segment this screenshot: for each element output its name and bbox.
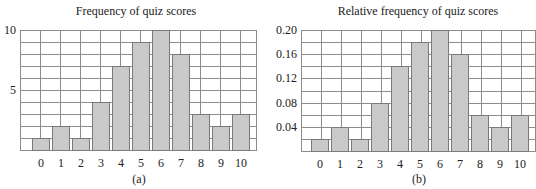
x-tick-label: 1 (337, 157, 343, 171)
x-tick-label: 1 (58, 156, 64, 170)
y-axis-ticks: 0.040.080.120.160.20 (276, 23, 297, 134)
chart-frequency: Frequency of quiz scores 510 01234567891… (0, 0, 270, 189)
x-tick-label: 6 (158, 156, 164, 170)
x-tick-label: 10 (514, 157, 526, 171)
x-tick-label: 6 (437, 157, 443, 171)
x-tick-label: 8 (477, 157, 483, 171)
bar-3 (372, 104, 389, 152)
y-tick-label: 0.08 (276, 96, 297, 110)
x-tick-label: 7 (178, 156, 184, 170)
bar-10 (233, 115, 250, 151)
bar-0 (312, 140, 329, 152)
x-tick-label: 0 (317, 157, 323, 171)
y-tick-label: 10 (4, 23, 16, 37)
x-axis-ticks: 012345678910 (317, 157, 526, 171)
bar-3 (93, 103, 110, 151)
y-tick-label: 0.04 (276, 120, 297, 134)
x-tick-label: 2 (357, 157, 363, 171)
x-tick-label: 10 (235, 156, 247, 170)
y-tick-label: 0.16 (276, 47, 297, 61)
bar-1 (53, 127, 70, 151)
bar-0 (33, 139, 50, 151)
x-axis-ticks: 012345678910 (38, 156, 247, 170)
x-tick-label: 3 (98, 156, 104, 170)
chart-title: Relative frequency of quiz scores (338, 4, 499, 18)
x-tick-label: 5 (417, 157, 423, 171)
bar-2 (73, 139, 90, 151)
bar-2 (352, 140, 369, 152)
bar-8 (193, 115, 210, 151)
chart-caption: (b) (412, 172, 426, 186)
bar-8 (472, 116, 489, 152)
x-tick-label: 8 (198, 156, 204, 170)
bar-7 (173, 55, 190, 151)
bar-6 (153, 31, 170, 151)
y-tick-label: 0.20 (276, 23, 297, 37)
x-tick-label: 4 (397, 157, 403, 171)
bar-9 (492, 128, 509, 152)
chart-caption: (a) (132, 172, 145, 186)
x-tick-label: 0 (38, 156, 44, 170)
y-tick-label: 0.12 (276, 71, 297, 85)
chart-title: Frequency of quiz scores (76, 4, 197, 18)
y-axis-ticks: 510 (4, 23, 16, 97)
bar-1 (332, 128, 349, 152)
chart-relative-frequency: Relative frequency of quiz scores 0.040.… (268, 0, 536, 189)
bar-10 (512, 116, 529, 152)
bar-6 (432, 31, 449, 152)
x-tick-label: 9 (218, 156, 224, 170)
bar-5 (133, 43, 150, 151)
bar-5 (412, 43, 429, 152)
bar-7 (452, 55, 469, 152)
x-tick-label: 2 (78, 156, 84, 170)
x-tick-label: 3 (377, 157, 383, 171)
y-tick-label: 5 (10, 83, 16, 97)
bar-4 (113, 67, 130, 151)
x-tick-label: 4 (118, 156, 124, 170)
bar-9 (213, 127, 230, 151)
x-tick-label: 9 (497, 157, 503, 171)
x-tick-label: 5 (138, 156, 144, 170)
x-tick-label: 7 (457, 157, 463, 171)
bar-4 (392, 67, 409, 152)
